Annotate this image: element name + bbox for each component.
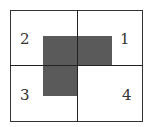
quadrant-label-2: 2: [20, 32, 30, 47]
quadrant-label-3: 3: [20, 88, 30, 103]
vertical-divider: [77, 10, 78, 122]
quadrant-label-1: 1: [120, 32, 130, 47]
shaded-region-bottom: [43, 66, 78, 96]
horizontal-divider: [10, 65, 143, 66]
quadrant-label-4: 4: [122, 88, 132, 103]
